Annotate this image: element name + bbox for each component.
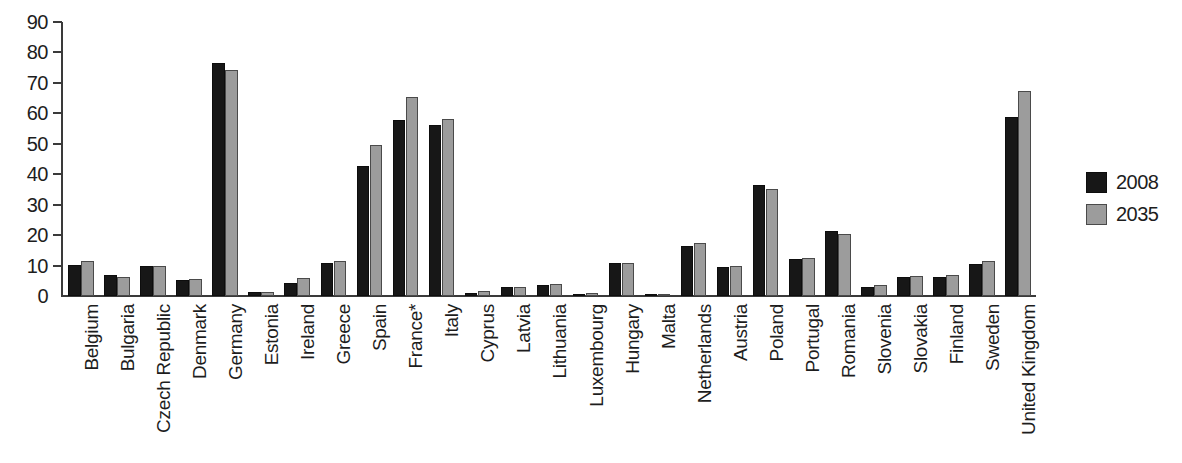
bar-2008 [861, 287, 874, 296]
bar-2035 [910, 276, 923, 296]
y-tick-label: 10 [27, 254, 48, 277]
bar-group [207, 22, 243, 296]
y-tick-label: 90 [27, 11, 48, 34]
bar-2008 [681, 246, 694, 296]
bar-group [387, 22, 423, 296]
bar-group [423, 22, 459, 296]
bar-2035 [225, 70, 238, 296]
bar-group [892, 22, 928, 296]
bar-2008 [248, 292, 261, 296]
bar-2035 [514, 287, 527, 296]
bar-group [820, 22, 856, 296]
bar-2035 [153, 266, 166, 296]
y-tick-label: 60 [27, 102, 48, 125]
bar-2008 [212, 63, 225, 296]
bar-group [676, 22, 712, 296]
x-tick-label-slot: Portugal [784, 300, 820, 460]
x-tick-label-slot: Malta [640, 300, 676, 460]
x-tick-label-slot: Luxembourg [568, 300, 604, 460]
bar-2008 [501, 287, 514, 296]
bar-group [495, 22, 531, 296]
bar-2008 [321, 263, 334, 296]
x-tick-label-slot: Denmark [171, 300, 207, 460]
x-tick-label: United Kingdom [1018, 304, 1040, 435]
bar-2035 [838, 234, 851, 296]
bar-2035 [766, 189, 779, 296]
bar-group [784, 22, 820, 296]
y-tick-label: 20 [27, 224, 48, 247]
x-tick-label-slot: Slovenia [856, 300, 892, 460]
bar-group [568, 22, 604, 296]
x-tick-label-slot: Estonia [243, 300, 279, 460]
bar-group [99, 22, 135, 296]
bar-group [964, 22, 1000, 296]
bar-2008 [933, 277, 946, 296]
x-tick-label-slot: Czech Republic [135, 300, 171, 460]
bar-2035 [586, 293, 599, 296]
bar-2008 [1005, 117, 1018, 296]
x-tick-label-slot: Netherlands [676, 300, 712, 460]
bar-2035 [658, 294, 671, 296]
bar-2035 [370, 145, 383, 296]
x-tick-label-slot: Greece [315, 300, 351, 460]
x-tick-label-slot: Cyprus [459, 300, 495, 460]
legend-item: 2008 [1086, 168, 1182, 196]
x-tick-label-slot: Hungary [604, 300, 640, 460]
bar-2035 [442, 119, 455, 296]
bar-group [315, 22, 351, 296]
bar-2035 [874, 285, 887, 296]
bar-group [459, 22, 495, 296]
bar-2035 [297, 278, 310, 296]
x-tick-label-slot: Romania [820, 300, 856, 460]
x-tick-label-slot: Belgium [63, 300, 99, 460]
legend-swatch-icon [1086, 204, 1107, 225]
bar-2008 [284, 283, 297, 296]
x-tick-label-slot: Ireland [279, 300, 315, 460]
x-tick-label-slot: Germany [207, 300, 243, 460]
bar-2008 [537, 285, 550, 296]
bar-2008 [825, 231, 838, 296]
x-tick-label-slot: Sweden [964, 300, 1000, 460]
legend-label: 2035 [1116, 203, 1159, 226]
x-tick-label-slot: United Kingdom [1000, 300, 1036, 460]
x-tick-label-slot: Spain [351, 300, 387, 460]
bar-2008 [393, 120, 406, 296]
bar-2008 [140, 266, 153, 296]
bar-2035 [334, 261, 347, 296]
bar-group [351, 22, 387, 296]
legend-item: 2035 [1086, 200, 1182, 228]
y-tick-label: 40 [27, 163, 48, 186]
bar-2035 [406, 97, 419, 296]
bar-2008 [717, 267, 730, 296]
bar-2035 [261, 292, 274, 296]
bar-group [531, 22, 567, 296]
bar-group [928, 22, 964, 296]
bar-group [712, 22, 748, 296]
legend-swatch-icon [1086, 172, 1107, 193]
bar-group [243, 22, 279, 296]
bar-2035 [117, 277, 130, 296]
bar-group [856, 22, 892, 296]
bar-group [604, 22, 640, 296]
bar-2035 [802, 258, 815, 296]
bar-2008 [176, 280, 189, 296]
bar-group [279, 22, 315, 296]
x-tick-label-slot: Poland [748, 300, 784, 460]
x-tick-label-slot: Latvia [495, 300, 531, 460]
legend-label: 2008 [1116, 171, 1159, 194]
bar-2008 [573, 294, 586, 296]
y-tick-label: 0 [37, 285, 48, 308]
bar-group [640, 22, 676, 296]
bar-2035 [1018, 91, 1031, 296]
bar-chart: 0102030405060708090 BelgiumBulgariaCzech… [0, 0, 1182, 463]
y-tick-label: 80 [27, 41, 48, 64]
bar-2035 [622, 263, 635, 296]
bar-2008 [465, 293, 478, 296]
chart-legend: 20082035 [1086, 168, 1182, 232]
y-axis: 0102030405060708090 [0, 0, 62, 320]
bar-2035 [478, 291, 491, 296]
bar-group [135, 22, 171, 296]
bar-2008 [789, 259, 802, 296]
x-tick-label-slot: Finland [928, 300, 964, 460]
bar-2008 [897, 277, 910, 296]
